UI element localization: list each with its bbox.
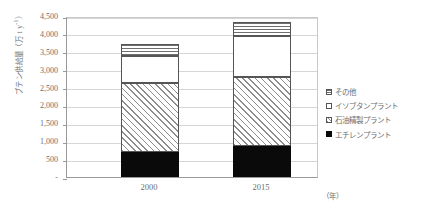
y-axis-tick (63, 161, 67, 162)
bar-segment-refinery (121, 83, 179, 152)
bar-segment-refinery (233, 77, 291, 146)
y-axis-tick-label: 3,500 (40, 49, 58, 57)
y-axis-tick (63, 53, 67, 54)
plot-area (66, 17, 318, 178)
bar-segment-isobutane (233, 36, 291, 76)
y-axis-tick (63, 179, 67, 180)
y-axis-tick-label: 4,500 (40, 13, 58, 21)
y-axis-tick (63, 143, 67, 144)
y-axis-tick (63, 35, 67, 36)
x-axis-tick-labels: 20002015 (66, 182, 318, 196)
bar-segment-ethylene (233, 146, 291, 177)
y-axis-tick-label: 3,000 (40, 67, 58, 75)
stacked-bar-chart: ブテン供給量（万 t y-1） -5001,0001,5002,0002,500… (0, 0, 428, 214)
y-axis-tick-label: 4,000 (40, 31, 58, 39)
legend-item-refinery[interactable]: 石油精製プラント (326, 114, 428, 125)
bar-segment-other (121, 44, 179, 57)
y-axis-tick-label: - (55, 174, 58, 182)
bar-segment-other (233, 22, 291, 36)
legend-swatch-refinery-icon (326, 117, 332, 123)
y-axis-tick (63, 125, 67, 126)
y-axis-tick (63, 107, 67, 108)
y-axis-tick (63, 89, 67, 90)
legend-label: 石油精製プラント (335, 114, 391, 125)
y-axis-tick-label: 500 (46, 156, 58, 164)
bar-2015 (233, 22, 291, 177)
legend-item-ethylene[interactable]: エチレンプラント (326, 129, 428, 140)
y-axis-tick-label: 2,500 (40, 85, 58, 93)
bar-segment-isobutane (121, 56, 179, 82)
gridline (67, 18, 317, 19)
legend-swatch-other-icon (326, 89, 332, 95)
x-axis-tick-label: 2015 (231, 182, 291, 192)
y-axis-tick-label: 1,500 (40, 120, 58, 128)
x-axis-tick-label: 2000 (119, 182, 179, 192)
legend: その他イソブタンプラント石油精製プラントエチレンプラント (326, 86, 428, 143)
bar-2000 (121, 44, 179, 177)
x-axis-unit-label: （年） (322, 190, 343, 201)
y-axis-tick-labels: -5001,0001,5002,0002,5003,0003,5004,0004… (0, 17, 62, 178)
legend-label: イソブタンプラント (335, 100, 398, 111)
bar-segment-ethylene (121, 152, 179, 177)
legend-item-other[interactable]: その他 (326, 86, 428, 97)
y-axis-tick (63, 71, 67, 72)
legend-label: その他 (335, 86, 356, 97)
legend-swatch-ethylene-icon (326, 131, 332, 137)
y-axis-tick (63, 18, 67, 19)
legend-item-isobutane[interactable]: イソブタンプラント (326, 100, 428, 111)
legend-label: エチレンプラント (335, 129, 391, 140)
y-axis-tick-label: 1,000 (40, 138, 58, 146)
legend-swatch-isobutane-icon (326, 103, 332, 109)
y-axis-tick-label: 2,000 (40, 102, 58, 110)
